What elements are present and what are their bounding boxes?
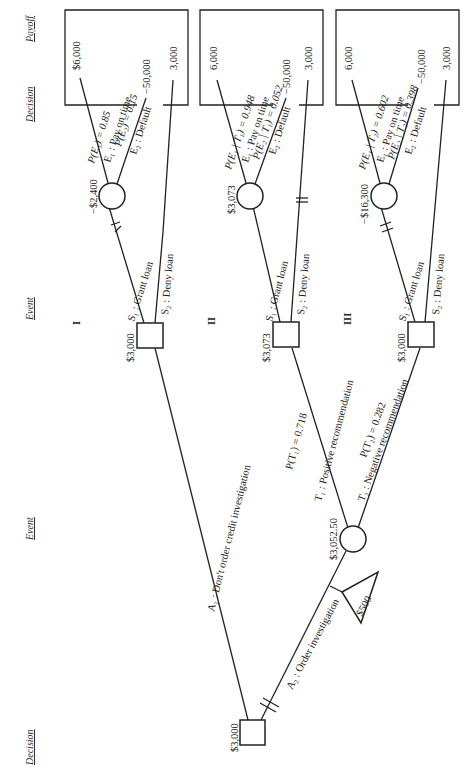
box-II-payoff-deny: 3,000 — [303, 46, 314, 70]
box-I-decision-value: $3,000 — [125, 333, 136, 362]
investigation-event-node — [340, 526, 366, 552]
decision-tree-diagram: Decision Event Decision Event Payoff $50… — [0, 0, 468, 781]
box-II-id: II — [206, 317, 217, 325]
header-event-left: Event — [24, 517, 35, 541]
box-I-decision-node — [137, 323, 163, 348]
subtree-I: I $3,000 S₁ : Grant loan S₂ : Deny loan … — [71, 41, 179, 362]
box-II-payoff-e1: 6,000 — [208, 46, 219, 70]
box-III-decision-node — [408, 322, 434, 347]
box-II-decision-node — [273, 322, 299, 347]
header-decision-right: Decision — [24, 86, 35, 123]
header-payoff: Payoff — [24, 15, 35, 43]
a2-label: A₂ : Order investigation — [284, 596, 341, 691]
a1-label: A₁ : Don't order credit investigation — [205, 463, 252, 612]
branch-a2 — [261, 551, 346, 720]
box-I-s2: S₂ : Deny loan — [159, 253, 175, 316]
box-III-payoff-deny: 3,000 — [441, 46, 452, 70]
subtree-II: II $3,073 S₁ : Grant loan S₂ : Deny loan… — [206, 46, 314, 362]
box-I-event-value: −$2,400 — [88, 179, 99, 214]
box-II-payoff-e2: −50,000 — [281, 59, 292, 94]
box-I-id: I — [71, 321, 82, 325]
investigation-event-value: $3,052.50 — [328, 518, 339, 560]
root-value: $3,000 — [229, 723, 240, 752]
box-III-s2: S₂ : Deny loan — [430, 253, 446, 316]
subtree-III: III $3,000 S₁ : Grant loan S₂ : Deny loa… — [342, 46, 452, 362]
box-III-payoff-e2: −50,000 — [416, 49, 427, 84]
root-decision-node — [240, 720, 265, 745]
box-I-payoff-deny: 3,000 — [168, 46, 179, 70]
header-event-right: Event — [24, 297, 35, 321]
header-decision-left: Decision — [24, 729, 35, 766]
box-I-payoff-e1: $6,000 — [71, 41, 82, 70]
box-III-id: III — [342, 313, 353, 325]
t1-prob: P(T₁) = 0.718 — [283, 412, 310, 471]
box-III-decision-value: $3,000 — [396, 333, 407, 362]
box-III-payoff-e1: 6,000 — [343, 46, 354, 70]
box-I-payoff-e2: −50,000 — [141, 59, 152, 94]
box-II-event-value: $3,073 — [226, 185, 237, 214]
box-III-event-value: −$16,300 — [359, 184, 370, 224]
box-II-decision-value: $3,073 — [261, 333, 272, 362]
box-III-s1: S₁ : Grant loan — [396, 259, 426, 322]
box-II-s2: S₂ : Deny loan — [295, 253, 311, 316]
